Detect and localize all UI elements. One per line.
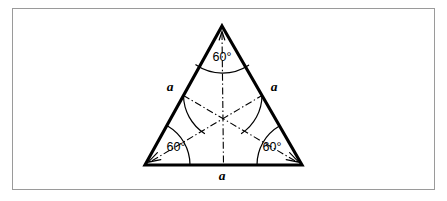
angle-label-bottom-left: 60° bbox=[167, 140, 186, 154]
figure-root: 60° 60° 60° a a a bbox=[0, 0, 447, 201]
angle-label-apex: 60° bbox=[213, 50, 232, 64]
inner-arc-right bbox=[242, 96, 263, 134]
angle-label-bottom-right: 60° bbox=[263, 140, 282, 154]
inner-arc-left bbox=[184, 96, 205, 134]
side-label-right: a bbox=[271, 79, 278, 94]
side-label-left: a bbox=[167, 79, 174, 94]
triangle-diagram: 60° 60° 60° a a a bbox=[0, 0, 447, 201]
side-label-base: a bbox=[219, 168, 226, 183]
